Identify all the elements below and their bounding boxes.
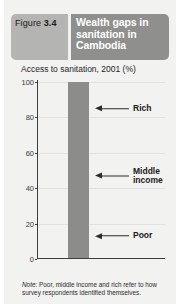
x-axis-line <box>37 258 165 259</box>
y-axis-tick-label: 80 <box>26 113 34 122</box>
y-axis-tick-label: 0 <box>30 255 34 264</box>
gridline <box>37 153 165 154</box>
figure-number-value: 3.4 <box>44 18 57 28</box>
annotation-label: Rich <box>133 104 151 114</box>
y-axis-tick-label: 60 <box>26 148 34 157</box>
y-axis-tick-mark <box>35 188 38 189</box>
figure-number-label: Figure 3.4 <box>15 18 57 28</box>
figure-title-block: Wealth gaps in sanitation in Cambodia <box>71 14 169 60</box>
gridline <box>37 188 165 189</box>
y-axis-tick-mark <box>35 82 38 83</box>
y-axis-tick-mark <box>35 117 38 118</box>
y-axis-line <box>37 80 38 259</box>
figure-note: Note: Poor, middle income and rich refer… <box>22 281 170 296</box>
plot-area: 020406080100 RichMiddle incomePoor <box>37 82 165 259</box>
page-left-margin <box>0 0 4 304</box>
figure-header: Figure 3.4 Wealth gaps in sanitation in … <box>11 14 169 60</box>
gridline <box>37 224 165 225</box>
y-axis-tick-mark <box>35 153 38 154</box>
annotation-arrow-icon <box>95 172 129 179</box>
annotation-label: Middle income <box>133 166 163 185</box>
figure-note-text: Poor, middle income and rich refer to ho… <box>22 281 157 296</box>
annotation-label: Poor <box>133 231 152 241</box>
gridline <box>37 82 165 83</box>
y-axis-tick-mark <box>35 224 38 225</box>
y-axis-tick-mark <box>35 259 38 260</box>
y-axis-tick-label: 40 <box>26 184 34 193</box>
bar <box>68 82 89 258</box>
chart-panel: Access to sanitation, 2001 (%) 020406080… <box>11 62 169 274</box>
bar-annotation: Poor <box>95 231 152 241</box>
bar-annotation: Middle income <box>95 166 163 185</box>
gridline <box>37 117 165 118</box>
figure-container: Figure 3.4 Wealth gaps in sanitation in … <box>0 0 176 304</box>
figure-number-tag: Figure 3.4 <box>11 14 68 60</box>
annotation-arrow-icon <box>95 232 129 239</box>
chart-title: Access to sanitation, 2001 (%) <box>21 64 136 74</box>
bar-annotation: Rich <box>95 104 151 114</box>
figure-number-prefix: Figure <box>15 18 44 28</box>
y-axis-tick-label: 100 <box>21 78 34 87</box>
figure-title: Wealth gaps in sanitation in Cambodia <box>76 17 165 52</box>
annotation-arrow-icon <box>95 105 129 112</box>
y-axis-tick-label: 20 <box>26 219 34 228</box>
figure-note-label: Note: <box>22 281 37 288</box>
